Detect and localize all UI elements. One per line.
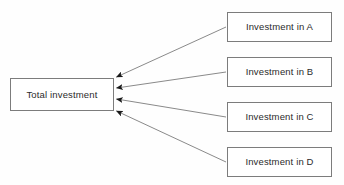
edge-c-to-total bbox=[117, 99, 227, 117]
node-investment-a[interactable]: Investment in A bbox=[227, 12, 332, 42]
node-investment-c[interactable]: Investment in C bbox=[227, 102, 332, 132]
edge-b-to-total bbox=[117, 72, 227, 88]
edge-d-to-total bbox=[117, 111, 227, 162]
node-investment-d-label: Investment in D bbox=[245, 157, 313, 167]
node-total-investment-label: Total investment bbox=[26, 90, 97, 100]
node-investment-b[interactable]: Investment in B bbox=[227, 57, 332, 87]
node-total-investment[interactable]: Total investment bbox=[10, 78, 114, 111]
node-investment-c-label: Investment in C bbox=[245, 112, 313, 122]
edge-a-to-total bbox=[117, 27, 227, 77]
diagram-canvas: Total investment Investment in A Investm… bbox=[0, 0, 344, 185]
node-investment-b-label: Investment in B bbox=[246, 67, 314, 77]
node-investment-d[interactable]: Investment in D bbox=[227, 147, 332, 177]
node-investment-a-label: Investment in A bbox=[246, 22, 313, 32]
